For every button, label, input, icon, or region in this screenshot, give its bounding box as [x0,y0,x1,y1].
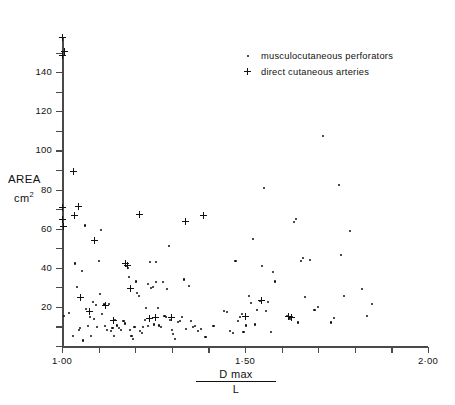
legend-plus-icon [243,67,255,77]
y-tick [56,287,62,288]
data-point-dot [111,327,113,329]
y-axis-title: AREA [8,173,41,185]
data-point-dot [313,309,315,311]
x-tick [135,347,136,353]
data-point-dot [132,338,134,340]
data-point-dot [330,321,332,323]
x-axis-title: D max L [196,368,276,395]
y-tick-label: 60 [26,223,52,234]
data-point-dot [200,328,202,330]
data-point-dot [272,271,274,273]
data-point-dot [297,321,299,323]
data-point-dot [181,316,183,318]
data-point-dot [84,224,86,226]
y-tick [56,326,62,327]
data-point-dot [129,329,131,331]
y-axis-unit-exponent: 2 [29,190,34,199]
y-tick [56,190,62,191]
data-point-dot [122,320,124,322]
x-axis-numerator: D max [196,368,276,382]
data-point-dot [270,331,272,333]
data-point-dot [366,315,368,317]
data-point-plus [168,314,175,321]
data-point-dot [212,325,214,327]
data-point-dot [188,285,190,287]
x-tick [208,347,209,353]
data-point-dot [92,301,94,303]
x-tick [318,347,319,353]
x-tick [355,347,356,353]
data-point-dot [78,329,80,331]
data-point-dot [157,307,159,309]
data-point-dot [179,320,181,322]
data-point-dot [172,333,174,335]
data-point-dot [130,335,132,337]
data-point-plus [86,308,93,315]
x-axis-denominator: L [196,382,276,395]
data-point-dot [250,302,252,304]
y-tick-label: 120 [26,105,52,116]
data-point-plus [91,237,98,244]
data-point-dot [171,329,173,331]
data-point-dot [274,280,276,282]
data-point-dot [168,245,170,247]
data-point-plus [124,262,131,269]
data-point-dot [113,335,115,337]
y-tick [56,248,62,249]
data-point-dot [101,313,103,315]
data-point-plus [110,317,117,324]
data-point-dot [322,135,324,137]
data-point-dot [194,325,196,327]
x-tick-label: 1·50 [225,355,265,366]
y-axis-unit: cm2 [14,190,34,204]
data-point-dot [237,320,239,322]
y-tick [56,92,62,93]
data-point-dot [147,325,149,327]
data-point-dot [340,254,342,256]
data-point-dot [76,286,78,288]
y-tick [56,131,62,132]
y-tick-label: 20 [26,301,52,312]
data-point-dot [72,335,74,337]
x-tick [245,347,246,353]
data-point-dot [185,328,187,330]
legend-item: musculocutaneous perforators [243,48,393,64]
data-point-dot [104,325,106,327]
data-point-dot [81,270,83,272]
data-point-dot [99,293,101,295]
data-point-dot [242,331,244,333]
data-point-dot [333,317,335,319]
data-point-plus [75,203,82,210]
data-point-dot [110,330,112,332]
data-point-dot [197,330,199,332]
legend-dot-icon [243,51,255,61]
data-point-dot [96,326,98,328]
x-tick [391,347,392,353]
x-tick [428,347,429,353]
data-point-dot [317,306,319,308]
data-point-dot [252,238,254,240]
data-point-dot [174,338,176,340]
data-point-dot [166,288,168,290]
data-point-dot [254,323,256,325]
data-point-dot [304,296,306,298]
data-point-dot [90,335,92,337]
data-point-plus [152,314,159,321]
data-point-dot [223,310,225,312]
data-point-dot [338,184,340,186]
data-point-dot [232,332,234,334]
data-point-dot [309,259,311,261]
data-point-plus [77,294,84,301]
legend-item: direct cutaneous arteries [243,64,393,80]
data-point-dot [89,316,91,318]
data-point-dot [136,292,138,294]
data-point-dot [145,307,147,309]
y-tick-label: 140 [26,66,52,77]
data-point-dot [361,288,363,290]
data-point-dot [256,309,258,311]
y-tick [56,307,62,308]
data-point-dot [155,261,157,263]
data-point-dot [245,324,247,326]
data-point-dot [100,229,102,231]
data-point-dot [135,280,137,282]
